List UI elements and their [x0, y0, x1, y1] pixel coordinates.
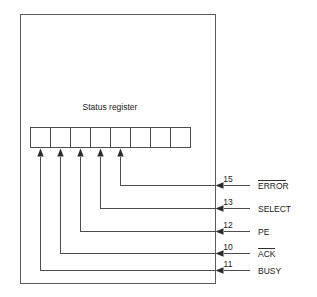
- register-bit-cell: [71, 128, 91, 148]
- register-input-arrow-ack: [57, 149, 63, 157]
- signal-label-select: SELECT: [258, 204, 291, 214]
- signal-label-error: ERROR: [258, 181, 289, 191]
- register-input-arrow-pe: [77, 149, 83, 157]
- signal-pin-number-ack: 10: [223, 242, 233, 252]
- signal-pin-number-pe: 12: [223, 220, 233, 230]
- signal-routing-lines: [37, 149, 215, 271]
- signal-pin-number-busy: 11: [224, 259, 233, 269]
- signal-trace-select: [101, 157, 216, 209]
- signal-pin-number-select: 13: [223, 197, 233, 207]
- register-input-arrow-busy: [37, 149, 43, 157]
- register-bit-cell: [31, 128, 51, 148]
- register-bit-cell: [171, 128, 191, 148]
- register-bit-cell: [151, 128, 171, 148]
- signal-label-ack: ACK: [258, 249, 276, 259]
- signal-label-pe: PE: [258, 227, 270, 237]
- outer-boundary-box: [21, 15, 216, 284]
- status-register-title: Status register: [83, 102, 138, 112]
- register-bit-cell: [51, 128, 71, 148]
- register-input-arrow-select: [97, 149, 103, 157]
- status-register-diagram: Status register 15ERROR13SELECT12PE10ACK…: [0, 0, 317, 297]
- register-bit-cell: [91, 128, 111, 148]
- signal-annotations: 15ERROR13SELECT12PE10ACK11BUSY: [216, 174, 292, 276]
- signal-trace-ack: [61, 157, 216, 254]
- register-input-arrow-error: [117, 149, 123, 157]
- signal-trace-error: [121, 157, 216, 186]
- signal-direction-arrow-busy: [216, 267, 224, 273]
- status-register-cells: [31, 128, 191, 148]
- register-bit-cell: [131, 128, 151, 148]
- signal-label-busy: BUSY: [258, 266, 281, 276]
- register-bit-cell: [111, 128, 131, 148]
- diagram-canvas: Status register 15ERROR13SELECT12PE10ACK…: [0, 0, 317, 297]
- signal-pin-number-error: 15: [223, 174, 233, 184]
